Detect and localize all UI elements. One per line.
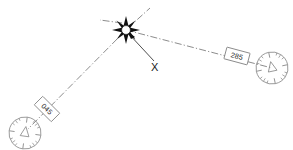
compass-rose-lower-left[interactable] <box>7 115 43 150</box>
radial-line-045 <box>28 30 126 129</box>
bearing-label-045[interactable]: 045 <box>34 96 59 121</box>
compass-rose-right[interactable] <box>253 49 291 87</box>
navigation-diagram: 045 285 <box>0 0 293 150</box>
diagram-canvas: 045 285 <box>0 0 293 150</box>
radial-line-285 <box>126 30 272 68</box>
north-arrow-triangle-icon <box>266 61 277 72</box>
north-arrow-triangle-icon <box>20 126 30 137</box>
bearing-label-285[interactable]: 285 <box>224 47 250 65</box>
fix-callout-label: X <box>151 62 158 73</box>
